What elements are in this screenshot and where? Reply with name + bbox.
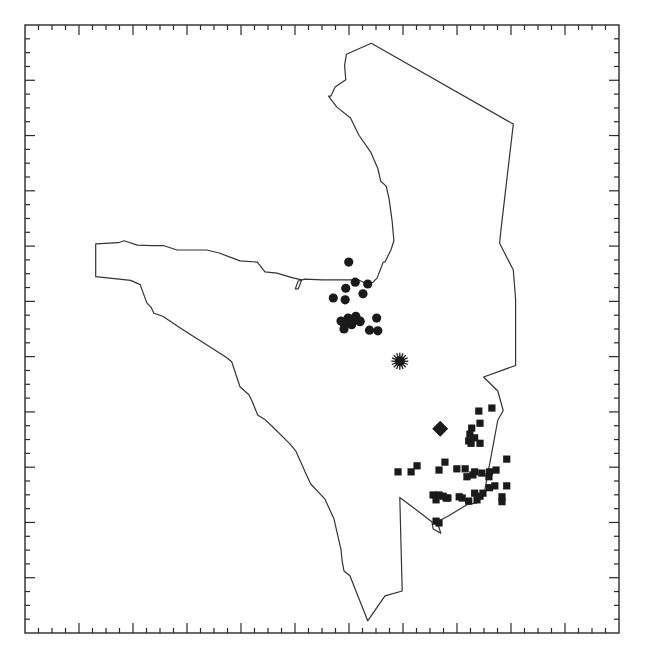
circle-marker [329,293,338,302]
circle-marker [347,320,356,329]
square-marker [467,440,474,447]
square-marker [435,466,442,473]
square-marker [475,407,482,414]
square-marker [408,468,415,475]
square-marker [485,473,492,480]
study-region-boundary [96,43,516,621]
square-markers [394,404,510,526]
square-marker [476,440,483,447]
square-marker [394,468,401,475]
square-marker [503,482,510,489]
circle-marker [344,258,353,267]
square-marker [462,465,469,472]
map-figure [0,0,645,654]
map-frame [25,25,619,633]
square-marker [463,473,470,480]
circle-markers [329,258,383,336]
square-marker [432,496,439,503]
square-marker [476,493,483,500]
sunburst-marker [391,353,408,370]
square-marker [465,497,472,504]
circle-marker [339,324,348,333]
square-marker [503,456,510,463]
circle-marker [358,289,367,298]
circle-marker [363,279,372,288]
diamond-marker [432,421,448,437]
square-marker [476,420,483,427]
square-marker [492,466,499,473]
diamond-marker-shape [432,421,448,437]
circle-marker [341,284,350,293]
square-marker [441,459,448,466]
circle-marker [351,278,360,287]
square-marker [471,468,478,475]
circle-marker [341,295,350,304]
square-marker [459,494,466,501]
square-marker [453,465,460,472]
circle-marker [372,313,381,322]
square-marker [498,498,505,505]
square-marker [478,469,485,476]
square-marker [435,519,442,526]
circle-marker [373,326,382,335]
square-marker [486,484,493,491]
circle-marker [365,326,374,335]
square-marker [488,404,495,411]
square-marker [444,494,451,501]
circle-marker [355,317,364,326]
frame-ticks [25,25,619,633]
